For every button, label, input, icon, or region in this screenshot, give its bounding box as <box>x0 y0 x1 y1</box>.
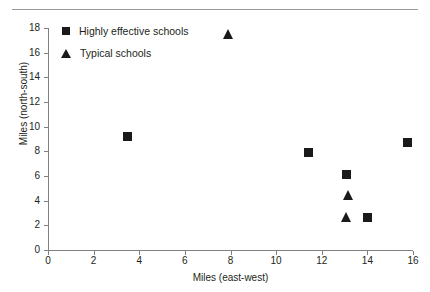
y-tick <box>44 28 48 29</box>
legend-item-highly-effective-schools: Highly effective schools <box>62 24 189 38</box>
x-tick-label: 16 <box>398 256 428 266</box>
data-point-square <box>342 170 351 179</box>
x-axis-title: Miles (east-west) <box>48 272 413 283</box>
data-point-square <box>304 148 313 157</box>
x-tick-label: 0 <box>33 256 63 266</box>
y-tick <box>44 176 48 177</box>
y-axis-title: Miles (north-south) <box>18 29 29 179</box>
x-tick-label: 14 <box>352 256 382 266</box>
x-tick-label: 12 <box>307 256 337 266</box>
y-tick <box>44 225 48 226</box>
data-point-square <box>363 213 372 222</box>
y-tick-label: 4 <box>4 196 40 206</box>
square-marker-icon <box>62 27 70 35</box>
data-point-square <box>123 132 132 141</box>
legend-item-label: Typical schools <box>80 47 151 59</box>
data-point-triangle <box>341 212 351 222</box>
data-point-square <box>403 138 412 147</box>
y-tick <box>44 77 48 78</box>
x-tick-label: 10 <box>261 256 291 266</box>
top-divider-rule <box>12 9 418 10</box>
x-tick-label: 4 <box>124 256 154 266</box>
scatter-chart-figure: 024681012141618 0246810121416 Miles (eas… <box>0 0 430 292</box>
x-tick-label: 6 <box>170 256 200 266</box>
data-point-triangle <box>343 190 353 200</box>
triangle-marker-icon <box>61 49 71 58</box>
x-tick-label: 8 <box>216 256 246 266</box>
data-point-triangle <box>223 29 233 39</box>
y-tick <box>44 53 48 54</box>
y-tick <box>44 201 48 202</box>
y-tick <box>44 102 48 103</box>
legend-item-typical-schools: Typical schools <box>62 46 151 60</box>
y-axis-line <box>48 28 49 250</box>
x-tick-label: 2 <box>79 256 109 266</box>
y-tick-label: 0 <box>4 245 40 255</box>
legend-item-label: Highly effective schools <box>79 25 189 37</box>
y-tick <box>44 127 48 128</box>
y-tick <box>44 151 48 152</box>
y-tick-label: 2 <box>4 220 40 230</box>
